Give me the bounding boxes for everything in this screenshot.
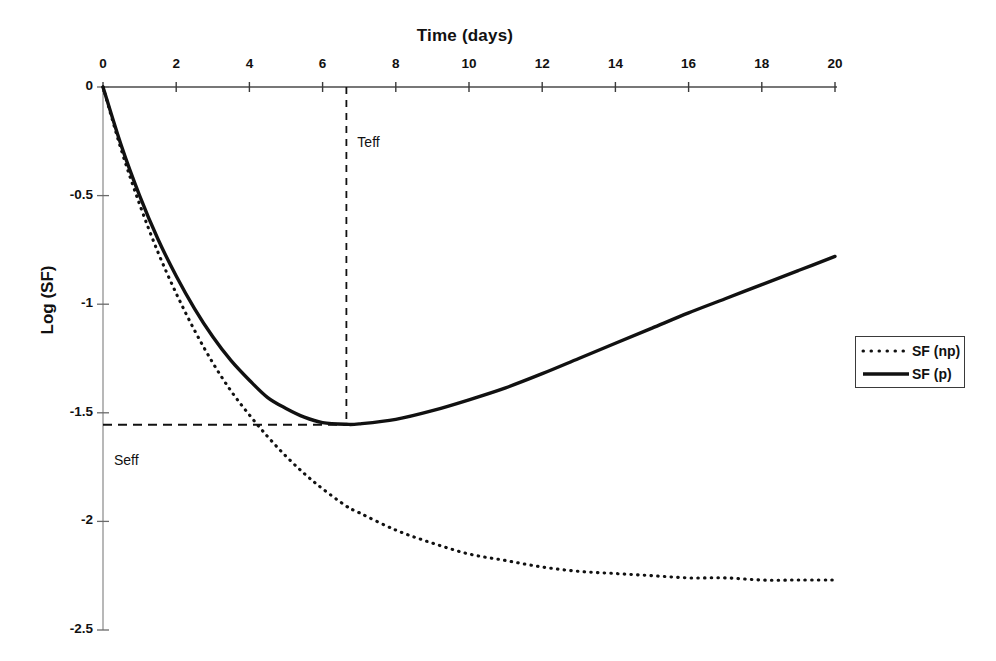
series-line-sfp [103, 87, 835, 424]
annotation-label-seff: Seff [114, 452, 139, 468]
annotation-label-teff: Teff [357, 134, 379, 150]
x-tick-label: 12 [522, 56, 562, 71]
annotation-lines [103, 87, 346, 425]
y-tick-label: 0 [41, 78, 93, 93]
chart-figure: Time (days) Log (SF) 02468101214161820 0… [0, 0, 996, 661]
data-series [103, 87, 835, 580]
y-tick-label: -1 [41, 295, 93, 310]
x-tick-label: 20 [815, 56, 855, 71]
plot-area [0, 0, 996, 661]
x-tick-label: 4 [229, 56, 269, 71]
legend-item-sf-p: SF (p) [856, 362, 966, 386]
y-tick-label: -0.5 [41, 187, 93, 202]
y-tick-label: -2 [41, 512, 93, 527]
x-tick-label: 10 [449, 56, 489, 71]
x-tick-label: 18 [742, 56, 782, 71]
legend-label-sf-np: SF (np) [912, 343, 960, 359]
x-tick-label: 2 [156, 56, 196, 71]
x-tick-label: 14 [595, 56, 635, 71]
x-tick-label: 8 [376, 56, 416, 71]
x-tick-label: 0 [83, 56, 123, 71]
legend-swatch-solid [861, 367, 911, 381]
legend-swatch-dotted [861, 344, 911, 358]
y-tick-label: -1.5 [41, 404, 93, 419]
legend-item-sf-np: SF (np) [856, 339, 966, 363]
legend-label-sf-p: SF (p) [912, 366, 952, 382]
x-tick-label: 6 [303, 56, 343, 71]
series-line-sfnp [103, 87, 835, 580]
y-tick-label: -2.5 [41, 621, 93, 636]
x-tick-label: 16 [669, 56, 709, 71]
chart-legend: SF (np) SF (p) [855, 336, 965, 388]
